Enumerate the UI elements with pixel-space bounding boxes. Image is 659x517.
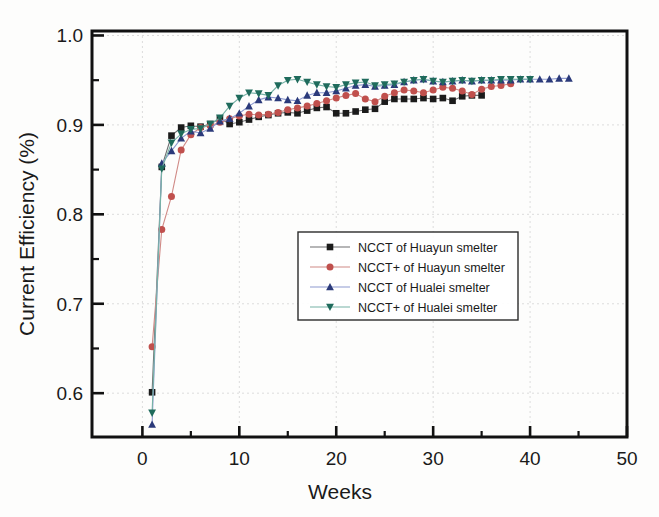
- y-tick-labels: 0.60.70.80.91.0: [57, 25, 83, 404]
- series-marker: [352, 90, 359, 97]
- x-tick-label: 20: [326, 448, 347, 469]
- x-tick-label: 0: [137, 448, 148, 469]
- x-tick-label: 30: [423, 448, 444, 469]
- series-marker: [333, 110, 340, 117]
- legend-label: NCCT of Huayun smelter: [358, 241, 497, 255]
- series-marker: [333, 95, 340, 102]
- series-marker: [468, 91, 475, 98]
- series-marker: [323, 97, 330, 104]
- x-tick-label: 50: [616, 448, 637, 469]
- series-marker: [410, 96, 417, 103]
- series-marker: [294, 104, 301, 111]
- y-tick-label: 0.6: [57, 383, 83, 404]
- legend-marker: [327, 264, 334, 271]
- figure-container: 01020304050 0.60.70.80.91.0 NCCT of Huay…: [0, 0, 659, 517]
- y-axis-title: Current Efficiency (%): [15, 132, 38, 336]
- series-marker: [255, 112, 262, 119]
- x-tick-label: 40: [520, 448, 541, 469]
- series-marker: [410, 87, 417, 94]
- legend-label: NCCT+ of Hualei smelter: [358, 301, 497, 315]
- y-tick-label: 0.9: [57, 115, 83, 136]
- series-marker: [391, 96, 398, 103]
- series-marker: [178, 124, 185, 131]
- series-marker: [362, 95, 369, 102]
- series-marker: [235, 109, 243, 116]
- series-marker: [235, 95, 243, 102]
- series-marker: [420, 89, 427, 96]
- series-marker: [168, 132, 175, 139]
- series-marker: [246, 111, 253, 118]
- series-marker: [372, 106, 379, 113]
- series-marker: [440, 95, 447, 102]
- series-marker: [391, 89, 398, 96]
- series-marker: [275, 109, 282, 116]
- series-marker: [265, 111, 272, 118]
- series-marker: [478, 86, 485, 93]
- series-marker: [478, 92, 485, 99]
- series-marker: [149, 389, 156, 396]
- series-marker: [178, 146, 185, 153]
- series-marker: [284, 106, 291, 113]
- series-marker: [148, 420, 156, 427]
- legend-marker: [327, 244, 334, 251]
- x-axis-title: Weeks: [308, 480, 372, 503]
- series-marker: [304, 103, 311, 110]
- legend-label: NCCT+ of Huayun smelter: [358, 261, 505, 275]
- y-tick-label: 1.0: [57, 25, 83, 46]
- x-axis-ticks: [142, 426, 627, 437]
- series-marker: [372, 98, 379, 105]
- series-marker: [401, 96, 408, 103]
- series-marker: [343, 110, 350, 117]
- series-marker: [236, 119, 243, 126]
- series-marker: [323, 104, 330, 111]
- series-marker: [401, 87, 408, 94]
- series-marker: [284, 77, 292, 84]
- legend-label: NCCT of Hualei smelter: [358, 281, 490, 295]
- series-marker: [342, 92, 349, 99]
- y-tick-label: 0.7: [57, 294, 83, 315]
- x-tick-labels: 01020304050: [137, 448, 637, 469]
- series-marker: [168, 193, 175, 200]
- y-tick-label: 0.8: [57, 204, 83, 225]
- series-marker: [148, 410, 156, 417]
- series-marker: [430, 87, 437, 94]
- y-axis-ticks: [92, 35, 104, 393]
- line-chart: 01020304050 0.60.70.80.91.0 NCCT of Huay…: [0, 0, 659, 517]
- series-marker: [362, 106, 369, 113]
- series-marker: [449, 85, 456, 92]
- x-tick-label: 10: [229, 448, 250, 469]
- series-marker: [449, 97, 456, 104]
- series-marker: [245, 102, 253, 109]
- series-marker: [352, 108, 359, 115]
- legend: NCCT of Huayun smelterNCCT+ of Huayun sm…: [298, 232, 518, 320]
- series-marker: [459, 87, 466, 94]
- series-marker: [430, 96, 437, 103]
- series-marker: [381, 93, 388, 100]
- series-marker: [313, 100, 320, 107]
